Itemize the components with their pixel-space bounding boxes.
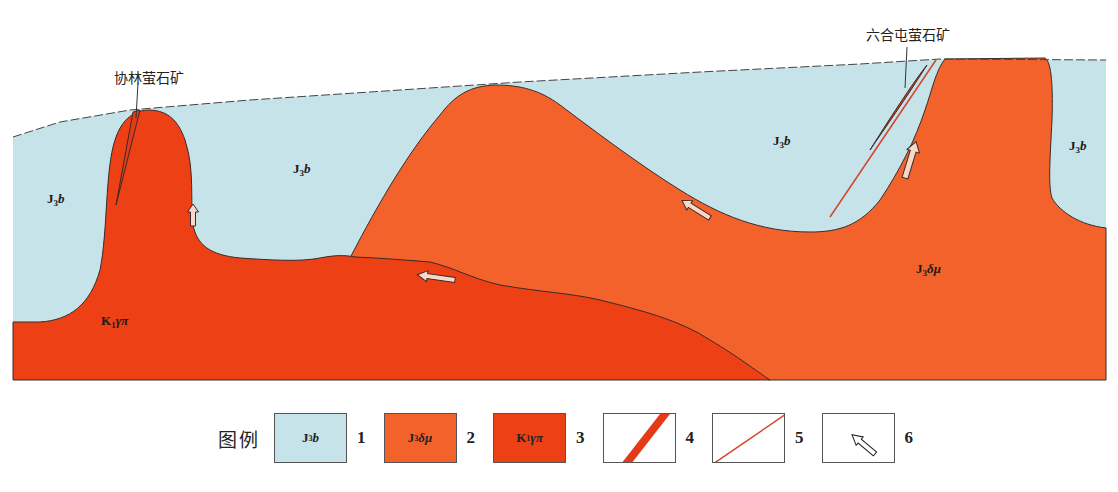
- mine-label-right: 六合屯萤石矿: [866, 27, 950, 43]
- legend-swatch-orebody: [603, 413, 676, 463]
- legend-swatch-arrow: [822, 413, 895, 463]
- unit-label-k1gpi: K1γπ: [101, 313, 129, 330]
- legend-title: 图例: [218, 425, 260, 452]
- orebody-icon: [604, 414, 676, 463]
- legend-swatch-j3b: J3b: [274, 413, 347, 463]
- legend-item-orebody: 4: [603, 413, 695, 463]
- legend: 图例 J3b 1 J3δμ 2 K1γπ 3 4 5 6: [218, 413, 931, 463]
- legend-number: 2: [467, 428, 476, 448]
- movement-arrow-icon: [823, 414, 895, 463]
- legend-item-arrow: 6: [822, 413, 914, 463]
- mine-label-left: 协林萤石矿: [114, 70, 184, 86]
- fault-line-icon: [713, 414, 785, 463]
- legend-number: 3: [576, 428, 585, 448]
- legend-item-j3dmu: J3δμ 2: [384, 413, 476, 463]
- legend-number: 4: [686, 428, 695, 448]
- legend-swatch-k1gpi: K1γπ: [493, 413, 566, 463]
- unit-label-j3dmu: J3δμ: [916, 261, 941, 278]
- legend-number: 1: [357, 428, 366, 448]
- legend-number: 6: [905, 428, 914, 448]
- legend-swatch-j3dmu: J3δμ: [384, 413, 457, 463]
- cross-section-diagram: J3b J3b J3b J3b J3δμ K1γπ 协林萤石矿 六合屯萤石矿: [0, 0, 1118, 400]
- legend-swatch-fault: [712, 413, 785, 463]
- legend-item-fault: 5: [712, 413, 804, 463]
- legend-item-j3b: J3b 1: [274, 413, 366, 463]
- legend-item-k1gpi: K1γπ 3: [493, 413, 585, 463]
- legend-number: 5: [795, 428, 804, 448]
